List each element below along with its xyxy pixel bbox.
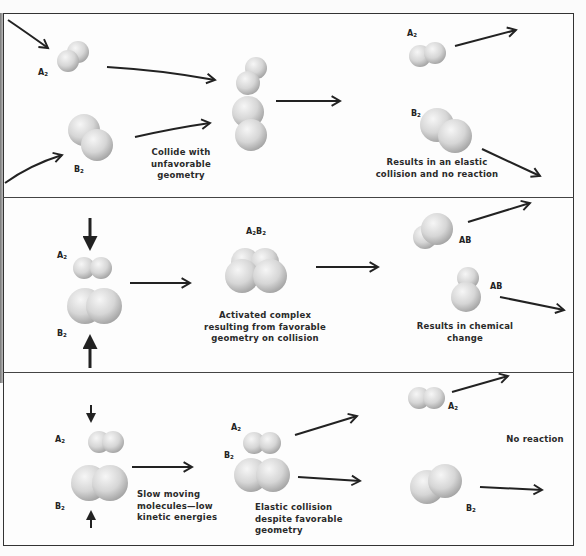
- label-b2-out: B2: [411, 110, 421, 119]
- panel-1-molecules: [57, 41, 472, 161]
- label-b2-final: B2: [466, 505, 476, 514]
- caption-activated-complex: Activated complexresulting from favorabl…: [195, 310, 335, 345]
- diagram-artwork: [0, 0, 586, 556]
- label-a2-slow: A2: [55, 436, 65, 445]
- caption-elastic-no-reaction: Results in an elasticcollision and no re…: [372, 157, 502, 180]
- label-a2-mid: A2: [231, 424, 241, 433]
- arrow-a2-to-collision-icon: [107, 67, 215, 80]
- label-ab-2: AB: [490, 283, 502, 291]
- arrow-a2-mid-out-icon: [295, 416, 357, 435]
- arrow-b2-in-icon: [5, 155, 62, 183]
- arrow-ab1-out-icon: [468, 203, 530, 222]
- arrow-ab2-out-icon: [500, 297, 564, 310]
- label-b2-mid: B2: [224, 452, 234, 461]
- label-b2-slow: B2: [55, 503, 65, 512]
- caption-slow-moving: Slow movingmolecules—lowkinetic energies: [137, 489, 227, 524]
- label-a2-in: A2: [38, 69, 48, 78]
- label-a2b2-complex: A2B2: [246, 228, 266, 237]
- label-a2-out: A2: [407, 30, 417, 39]
- caption-elastic-despite-favorable: Elastic collisiondespite favorablegeomet…: [255, 502, 355, 537]
- arrow-a2-out-icon: [455, 30, 516, 46]
- arrow-a2-in-icon: [8, 20, 48, 48]
- arrow-b2-mid-out-icon: [298, 477, 360, 481]
- panel-3-molecules: [71, 387, 462, 504]
- label-a2: A2: [57, 252, 67, 261]
- caption-collide-unfavorable: Collide withunfavorable geometry: [126, 147, 236, 182]
- panel-2-molecules: [67, 213, 481, 324]
- caption-no-reaction: No reaction: [505, 434, 565, 446]
- label-ab-1: AB: [459, 237, 471, 245]
- arrow-a2-final-out-icon: [452, 376, 508, 392]
- arrow-b2-final-out-icon: [480, 487, 542, 490]
- arrow-b2-to-collision-icon: [135, 123, 210, 137]
- caption-chemical-change: Results in chemicalchange: [410, 321, 520, 344]
- label-b2-in: B2: [74, 166, 84, 175]
- label-a2-final: A2: [448, 403, 458, 412]
- label-b2: B2: [57, 330, 67, 339]
